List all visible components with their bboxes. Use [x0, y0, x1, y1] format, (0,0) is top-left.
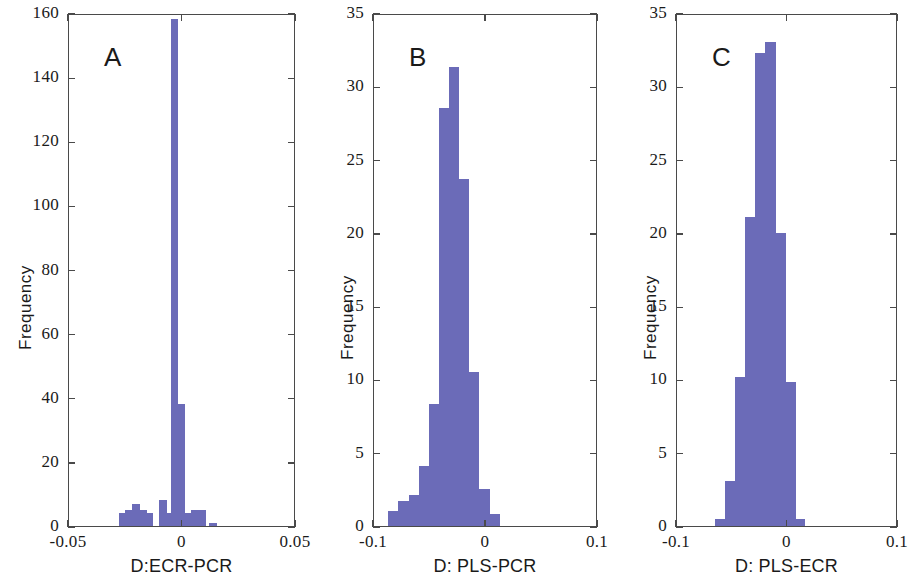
panel-c: 05101520253035-0.100.1CFrequencyD: PLS-E…	[0, 0, 918, 575]
ytick-mark-right	[890, 87, 897, 88]
histogram-bar	[755, 53, 766, 526]
ytick-mark	[676, 160, 683, 161]
histogram-bar	[745, 217, 756, 526]
ytick-mark	[676, 87, 683, 88]
panel-letter-c: C	[712, 42, 731, 73]
histogram-bar	[735, 377, 746, 527]
ytick-mark-right	[890, 380, 897, 381]
ytick-mark	[676, 380, 683, 381]
x-axis-label-c: D: PLS-ECR	[676, 556, 897, 575]
histogram-bar	[765, 42, 776, 526]
ytick-label: 20	[649, 223, 667, 243]
histogram-bar	[715, 519, 726, 526]
ytick-mark	[676, 526, 683, 527]
ytick-label: 5	[658, 443, 667, 463]
ytick-label: 30	[649, 76, 667, 96]
xtick-mark-top	[675, 14, 676, 21]
ytick-mark-right	[890, 307, 897, 308]
ytick-mark-right	[890, 233, 897, 234]
ytick-mark	[676, 307, 683, 308]
xtick-mark	[675, 520, 676, 527]
histogram-bar	[785, 382, 796, 526]
xtick-label: -0.1	[631, 532, 721, 552]
bar-series-c	[677, 15, 896, 526]
xtick-mark-top	[896, 14, 897, 21]
ytick-label: 25	[649, 150, 667, 170]
xtick-mark	[786, 520, 787, 527]
ytick-mark	[676, 453, 683, 454]
ytick-mark-right	[890, 453, 897, 454]
histogram-bar	[795, 519, 806, 526]
ytick-mark	[676, 13, 683, 14]
xtick-mark-top	[786, 14, 787, 21]
y-axis-label-c: Frequency	[641, 275, 661, 360]
ytick-mark	[676, 233, 683, 234]
ytick-label: 10	[649, 369, 667, 389]
ytick-mark-right	[890, 160, 897, 161]
xtick-label: 0	[742, 532, 832, 552]
figure-canvas: 020406080100120140160-0.0500.05AFrequenc…	[0, 0, 918, 575]
xtick-mark	[896, 520, 897, 527]
histogram-bar	[725, 481, 736, 526]
ytick-label: 35	[649, 3, 667, 23]
plot-area-c	[676, 14, 897, 527]
histogram-bar	[775, 233, 786, 526]
xtick-label: 0.1	[852, 532, 918, 552]
